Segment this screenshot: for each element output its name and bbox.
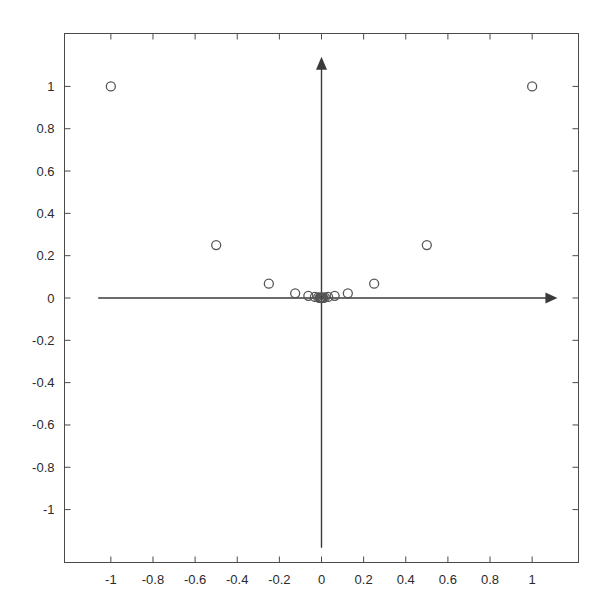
plot-canvas: -1-0.8-0.6-0.4-0.200.20.40.60.81 10.80.6… [0, 0, 606, 610]
x-tick-label: 0 [318, 572, 325, 587]
y-tick-label: 0 [47, 291, 54, 306]
y-tick-label: -1 [43, 502, 55, 517]
x-tick-label: 0.2 [355, 572, 373, 587]
figure-background [0, 0, 606, 610]
x-tick-label: -0.6 [184, 572, 206, 587]
x-tick-label: -0.4 [226, 572, 248, 587]
y-tick-label: -0.4 [32, 375, 54, 390]
x-tick-label: 0.4 [397, 572, 415, 587]
x-tick-label: 0.8 [481, 572, 499, 587]
x-tick-label: -1 [105, 572, 117, 587]
x-tick-label: 0.6 [439, 572, 457, 587]
y-tick-label: -0.2 [32, 333, 54, 348]
scatter-plot-figure: -1-0.8-0.6-0.4-0.200.20.40.60.81 10.80.6… [0, 0, 606, 610]
y-tick-label: 0.4 [36, 206, 54, 221]
x-tick-label: -0.8 [142, 572, 164, 587]
y-tick-label: -0.8 [32, 460, 54, 475]
x-tick-label: -0.2 [268, 572, 290, 587]
y-tick-label: 0.6 [36, 164, 54, 179]
y-tick-label: 1 [47, 79, 54, 94]
x-tick-label: 1 [529, 572, 536, 587]
y-tick-label: 0.2 [36, 248, 54, 263]
y-tick-label: -0.6 [32, 417, 54, 432]
y-tick-label: 0.8 [36, 121, 54, 136]
